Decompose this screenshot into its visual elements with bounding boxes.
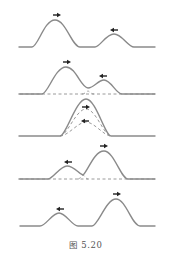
arrow-right-icon xyxy=(53,13,61,17)
arrow-right-icon xyxy=(100,144,108,148)
arrow-left-icon xyxy=(81,119,89,123)
arrow-left-icon xyxy=(56,207,64,211)
arrow-left-icon xyxy=(99,74,107,78)
arrow-left-icon xyxy=(110,28,118,32)
arrow-left-icon xyxy=(64,160,72,164)
arrow-right-icon xyxy=(82,105,90,109)
panel-5 xyxy=(20,192,155,226)
panel-2 xyxy=(19,60,155,94)
figure-caption: 图 5.20 xyxy=(0,238,171,250)
panel-4-waveform xyxy=(19,151,155,179)
panel-4 xyxy=(19,144,155,179)
arrow-right-icon xyxy=(113,192,121,196)
panel-2-waveform xyxy=(19,67,155,94)
wave-superposition-figure xyxy=(0,0,171,257)
panel-3 xyxy=(19,99,155,136)
panel-3-resultant-waveform xyxy=(19,99,155,136)
panel-5-waveform xyxy=(20,199,155,226)
panel-1-waveform xyxy=(19,20,155,47)
panel-1 xyxy=(19,13,155,47)
arrow-right-icon xyxy=(63,60,71,64)
